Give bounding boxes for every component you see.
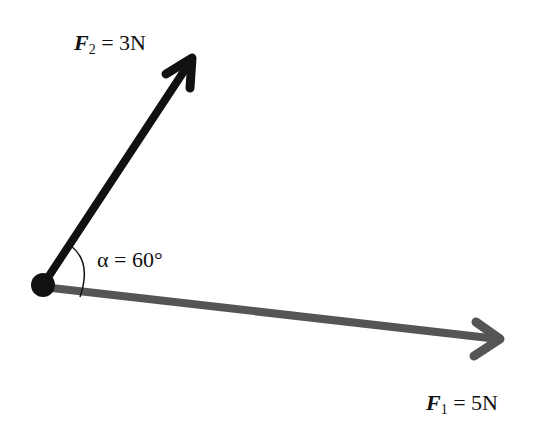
vector-drawing	[0, 0, 543, 433]
angle-label: α = 60°	[97, 247, 163, 273]
f2-label: F2 = 3N	[74, 30, 146, 58]
force-diagram: F2 = 3N α = 60° F1 = 5N	[0, 0, 543, 433]
origin-dot	[31, 273, 55, 297]
f1-label: F1 = 5N	[426, 390, 498, 418]
f1-arrow	[43, 287, 500, 356]
